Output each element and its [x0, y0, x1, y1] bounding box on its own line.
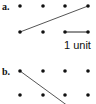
part-a: a. 1 unit: [2, 1, 91, 51]
part-a-label: a.: [2, 1, 10, 12]
part-a-segment: [20, 6, 88, 32]
unit-label: 1 unit: [64, 39, 91, 51]
part-b-segment: [20, 71, 68, 104]
part-b-label: b.: [2, 66, 11, 77]
part-b: b.: [2, 66, 90, 104]
dot-grid-figure: a. 1 unit b.: [0, 0, 96, 104]
part-b-dots: [18, 69, 90, 97]
